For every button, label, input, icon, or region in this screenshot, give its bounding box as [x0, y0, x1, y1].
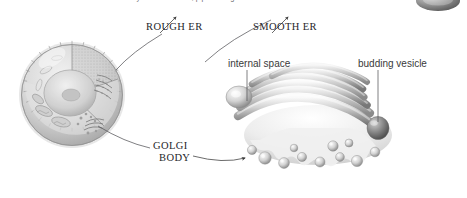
label-golgi-body: GOLGI BODY — [153, 140, 190, 164]
top-caption: the diameters of many interconnected, pi… — [66, 0, 296, 2]
label-golgi-body-line1: GOLGI — [153, 140, 188, 151]
top-caption-clip: the diameters of many interconnected, pi… — [66, 0, 406, 4]
label-rough-er: ROUGH ER — [146, 21, 203, 33]
arrow-golgi-body — [193, 156, 245, 161]
figure-canvas: the diameters of many interconnected, pi… — [0, 0, 467, 198]
corner-organelle-thumbnail — [416, 0, 460, 11]
label-golgi-body-line2: BODY — [153, 152, 190, 164]
cell-illustration — [19, 41, 125, 148]
label-smooth-er: SMOOTH ER — [253, 21, 317, 33]
leader-rough-er — [116, 34, 162, 70]
label-internal-space: internal space — [228, 58, 290, 69]
golgi-illustration — [226, 64, 392, 169]
cis-face-bulb — [226, 86, 252, 108]
label-budding-vesicle: budding vesicle — [358, 58, 427, 69]
diagram-artwork — [0, 0, 467, 198]
